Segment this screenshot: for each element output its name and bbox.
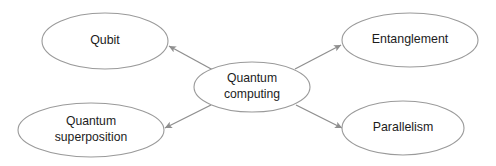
edge-to-parallelism <box>296 105 342 128</box>
node-qubit[interactable]: Qubit <box>42 13 168 69</box>
node-label-line: superposition <box>55 130 128 144</box>
nodes-group: QubitEntanglementQuantumsuperpositionPar… <box>18 13 478 157</box>
node-label-line: Quantum <box>66 115 116 129</box>
node-label-quantum-computing: Quantumcomputing <box>224 72 280 101</box>
node-quantum-computing[interactable]: Quantumcomputing <box>194 62 310 112</box>
diagram-canvas: QubitEntanglementQuantumsuperpositionPar… <box>0 0 496 166</box>
node-label-line: computing <box>224 87 280 101</box>
node-label-line: Qubit <box>90 33 120 47</box>
node-label-qubit: Qubit <box>90 33 120 47</box>
edge-to-quantum-superposition <box>165 105 211 128</box>
node-entanglement[interactable]: Entanglement <box>342 13 478 67</box>
edge-to-entanglement <box>295 45 341 69</box>
node-label-line: Quantum <box>227 72 277 86</box>
node-label-line: Parallelism <box>373 120 434 134</box>
node-label-line: Entanglement <box>372 32 449 46</box>
node-label-parallelism: Parallelism <box>373 120 434 134</box>
node-label-entanglement: Entanglement <box>372 32 449 46</box>
concept-map-diagram: QubitEntanglementQuantumsuperpositionPar… <box>0 0 496 166</box>
edge-to-qubit <box>169 46 213 70</box>
node-quantum-superposition[interactable]: Quantumsuperposition <box>18 103 164 157</box>
node-parallelism[interactable]: Parallelism <box>342 101 464 155</box>
